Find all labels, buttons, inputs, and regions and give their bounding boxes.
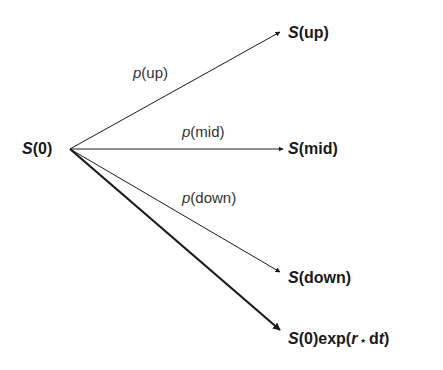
node-down-arg: (down) bbox=[299, 269, 351, 286]
node-mid-label: S(mid) bbox=[288, 141, 338, 157]
root-arg: (0) bbox=[33, 140, 53, 157]
prob-mid-arg: (mid) bbox=[190, 123, 224, 140]
prob-mid-label: p(mid) bbox=[182, 124, 225, 139]
node-mid-arg: (mid) bbox=[299, 140, 338, 157]
node-up-arg: (up) bbox=[299, 24, 329, 41]
prob-up-arg: (up) bbox=[141, 64, 168, 81]
branch-up-line bbox=[70, 32, 280, 149]
branch-down-line bbox=[70, 149, 280, 272]
node-mid-sym: S bbox=[288, 140, 299, 157]
prob-up-label: p(up) bbox=[133, 65, 168, 80]
root-sym: S bbox=[22, 140, 33, 157]
prob-down-label: p(down) bbox=[182, 190, 236, 205]
node-expected-label: S(0)exp(r ⋆ dt) bbox=[288, 331, 389, 347]
node-exp-pre: (0)exp( bbox=[299, 330, 351, 347]
branch-expected-line bbox=[70, 149, 280, 330]
node-exp-d: d bbox=[369, 330, 379, 347]
root-node-label: S(0) bbox=[22, 141, 52, 157]
node-exp-star: ⋆ bbox=[357, 335, 369, 346]
node-up-label: S(up) bbox=[288, 25, 329, 41]
node-down-sym: S bbox=[288, 269, 299, 286]
tree-diagram bbox=[0, 0, 443, 370]
node-exp-close: ) bbox=[384, 330, 389, 347]
prob-down-arg: (down) bbox=[190, 189, 236, 206]
node-up-sym: S bbox=[288, 24, 299, 41]
node-exp-sym: S bbox=[288, 330, 299, 347]
node-down-label: S(down) bbox=[288, 270, 351, 286]
